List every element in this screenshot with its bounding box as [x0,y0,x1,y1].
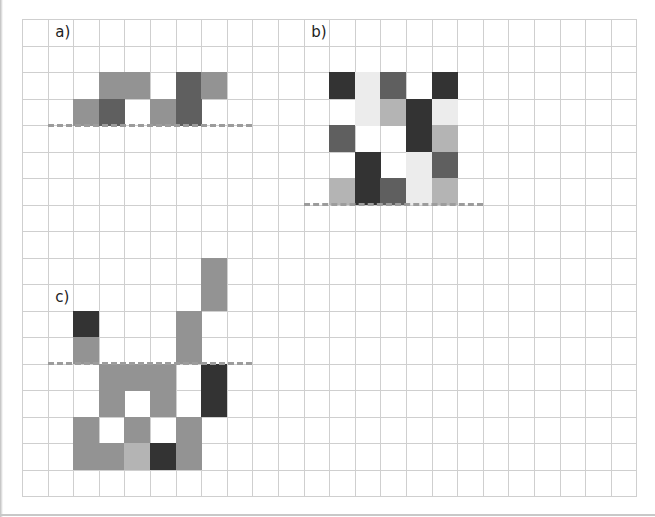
shaded-cell [73,99,99,126]
shaded-cell [432,125,458,152]
shaded-cell [99,364,125,391]
shaded-cell [355,152,381,179]
shaded-cell [73,443,99,470]
shaded-cell [380,99,406,126]
shaded-cell [406,178,432,205]
shaded-cell [73,417,99,444]
shaded-cell [432,152,458,179]
shaded-cell [73,337,99,364]
shaded-cell [329,72,355,99]
grid-horizontal-line [22,231,636,232]
shaded-cell [150,99,176,126]
page-bottom-edge [0,514,655,516]
grid-horizontal-line [22,337,636,338]
shaded-cell [99,390,125,417]
shaded-cell [176,417,202,444]
shaded-cell [150,364,176,391]
shaded-cell [201,72,227,99]
shaded-cell [201,258,227,285]
shaded-cell [329,125,355,152]
shaded-cell [201,284,227,311]
grid-horizontal-line [22,19,636,20]
shaded-cell [99,443,125,470]
shaded-cell [380,72,406,99]
shaded-cell [380,178,406,205]
shaded-cell [99,99,125,126]
shaded-cell [73,311,99,338]
shaded-cell [176,311,202,338]
shaded-cell [355,72,381,99]
figure-label: a) [55,23,70,41]
shaded-cell [406,99,432,126]
symmetry-dashed-line [48,124,253,127]
shaded-cell [176,99,202,126]
shaded-cell [432,72,458,99]
grid-horizontal-line [22,46,636,47]
shaded-cell [329,178,355,205]
shaded-cell [124,364,150,391]
grid-horizontal-line [22,496,636,497]
shaded-cell [355,99,381,126]
symmetry-dashed-line [48,362,253,365]
grid-horizontal-line [22,258,636,259]
shaded-cell [176,443,202,470]
shaded-cell [201,364,227,391]
symmetry-dashed-line [304,203,483,206]
shaded-cell [176,72,202,99]
figure-label: c) [55,288,69,306]
figure-label: b) [311,23,326,41]
grid-horizontal-line [22,311,636,312]
shaded-cell [432,99,458,126]
shaded-cell [124,72,150,99]
shaded-cell [176,337,202,364]
shaded-cell [150,443,176,470]
shaded-cell [432,178,458,205]
shaded-cell [406,125,432,152]
shaded-cell [99,72,125,99]
shaded-cell [124,443,150,470]
shaded-cell [406,152,432,179]
shaded-cell [150,390,176,417]
grid-vertical-line [636,19,637,497]
grid-horizontal-line [22,284,636,285]
shaded-cell [201,390,227,417]
shaded-cell [124,417,150,444]
shaded-cell [355,178,381,205]
worksheet-page: a)b)c) [0,0,655,517]
page-left-edge [0,0,3,517]
